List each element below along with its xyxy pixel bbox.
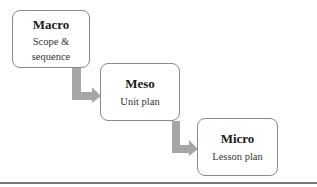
macro-subtitle-line-1: Scope & <box>13 36 89 48</box>
meso-title: Meso <box>101 76 179 92</box>
macro-subtitle-line-2: sequence <box>13 51 89 63</box>
meso-box: Meso Unit plan <box>100 63 180 121</box>
arrow-macro-to-meso-icon <box>70 68 102 104</box>
macro-title: Macro <box>13 17 89 33</box>
micro-box: Micro Lesson plan <box>197 118 278 176</box>
macro-box: Macro Scope & sequence <box>12 10 90 68</box>
micro-subtitle: Lesson plan <box>198 151 277 163</box>
arrow-meso-to-micro-icon <box>170 121 200 157</box>
bottom-divider <box>0 182 317 184</box>
meso-subtitle: Unit plan <box>101 96 179 108</box>
micro-title: Micro <box>198 131 277 147</box>
